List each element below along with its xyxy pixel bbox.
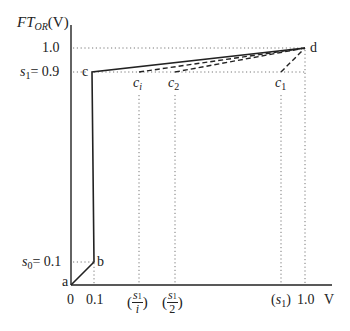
point-c2-sub: 2 xyxy=(174,81,179,92)
solid-path-abcd xyxy=(71,48,305,285)
point-ci-sub: i xyxy=(139,81,142,92)
y-axis-title-unit: (V) xyxy=(48,14,69,30)
y-tick-s0-value: = 0.1 xyxy=(32,254,61,269)
point-c1-sub: 1 xyxy=(281,81,286,92)
frac-i-den: i xyxy=(132,303,143,316)
x-tick-s1-over-i: (s1i) xyxy=(127,289,148,315)
frac-2-den: 2 xyxy=(167,303,178,316)
point-d: d xyxy=(310,41,317,55)
point-b: b xyxy=(97,255,104,269)
y-tick-s0-sub: 0 xyxy=(27,260,32,271)
frac-2-num-sub: 1 xyxy=(173,292,177,301)
point-c2: c2 xyxy=(168,76,179,90)
dotted-guides xyxy=(73,48,305,284)
y-tick-s0: s0= 0.1 xyxy=(22,255,61,269)
y-axis-title: FTOR(V) xyxy=(17,15,69,30)
y-axis-title-sub: OR xyxy=(35,21,48,32)
x-tick-s1: (s1) xyxy=(271,293,291,307)
point-a: a xyxy=(62,275,68,289)
frac-i-num-sub: 1 xyxy=(138,292,142,301)
point-c: c xyxy=(82,65,88,79)
y-tick-s1: s1= 0.9 xyxy=(20,65,59,79)
x-tick-s1-over-2: (s12) xyxy=(162,289,183,315)
y-tick-1.0: 1.0 xyxy=(42,41,60,55)
x-tick-0: 0 xyxy=(67,293,74,307)
x-axis-title: V xyxy=(324,293,334,307)
x-tick-s1-sub: 1 xyxy=(281,298,286,309)
y-tick-s1-sub: 1 xyxy=(25,70,30,81)
y-tick-s1-value: = 0.9 xyxy=(30,64,59,79)
x-tick-0.1: 0.1 xyxy=(86,293,104,307)
point-ci: ci xyxy=(133,76,142,90)
y-axis-title-main: FT xyxy=(17,14,35,30)
x-tick-1.0: 1.0 xyxy=(297,293,315,307)
point-c1: c1 xyxy=(275,76,286,90)
